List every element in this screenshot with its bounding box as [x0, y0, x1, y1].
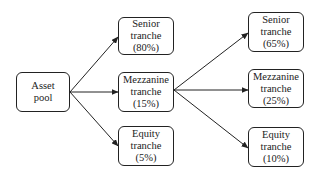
node-mezzanine-tranche-25: Mezzanine tranche (25%): [248, 69, 304, 108]
arrow-mezzanine-to-equity-10: [174, 90, 248, 148]
node-label: tranche: [131, 140, 162, 152]
node-percent: (65%): [263, 38, 289, 50]
node-label: Senior: [262, 14, 289, 26]
node-label: Equity: [132, 128, 160, 140]
node-label: tranche: [261, 83, 292, 95]
node-percent: (80%): [133, 42, 159, 54]
node-label: pool: [34, 92, 53, 104]
node-percent: (10%): [263, 153, 289, 165]
node-senior-tranche-80: Senior tranche (80%): [118, 17, 174, 55]
node-label: Mezzanine: [123, 74, 169, 86]
node-percent: (5%): [136, 152, 157, 164]
node-equity-tranche-5: Equity tranche (5%): [118, 126, 174, 166]
node-label: Mezzanine: [253, 71, 299, 83]
node-equity-tranche-10: Equity tranche (10%): [248, 127, 304, 167]
arrow-asset-to-equity-5: [70, 92, 118, 146]
node-label: tranche: [131, 86, 162, 98]
node-percent: (15%): [133, 98, 159, 110]
node-mezzanine-tranche-15: Mezzanine tranche (15%): [118, 72, 174, 112]
arrow-asset-to-senior-80: [70, 37, 118, 92]
node-label: tranche: [261, 141, 292, 153]
node-asset-pool: Asset pool: [16, 72, 70, 112]
node-label: Equity: [262, 129, 290, 141]
securitization-diagram: Asset pool Senior tranche (80%) Mezzanin…: [0, 0, 322, 176]
node-senior-tranche-65: Senior tranche (65%): [248, 12, 304, 52]
node-label: Asset: [31, 80, 54, 92]
node-label: tranche: [131, 30, 162, 42]
node-percent: (25%): [263, 95, 289, 107]
arrow-mezzanine-to-senior-65: [174, 33, 248, 90]
node-label: tranche: [261, 26, 292, 38]
node-label: Senior: [132, 18, 159, 30]
